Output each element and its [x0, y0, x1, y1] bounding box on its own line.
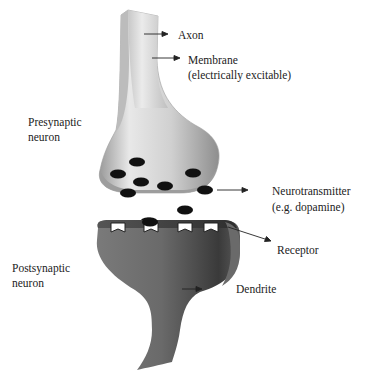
postsynaptic-neuron-shape	[97, 220, 240, 370]
label-presynaptic: Presynaptic	[28, 115, 82, 129]
vesicle	[120, 189, 136, 198]
vesicle	[157, 182, 173, 191]
arrowhead-neurotransmitter	[242, 188, 248, 193]
vesicle	[177, 206, 193, 215]
vesicle	[185, 169, 201, 178]
label-neurotransmitter: Neurotransmitter	[272, 184, 351, 198]
vesicle	[110, 170, 126, 179]
label-postsynaptic-2: neuron	[12, 276, 44, 290]
label-postsynaptic: Postsynaptic	[12, 261, 70, 275]
vesicle	[129, 158, 145, 167]
arrowhead-membrane	[174, 56, 180, 61]
vesicle	[197, 186, 213, 195]
vesicle	[133, 178, 149, 187]
label-membrane-note: (electrically excitable)	[188, 68, 291, 82]
arrowhead-axon	[162, 32, 168, 37]
label-neurotransmitter-note: (e.g. dopamine)	[272, 200, 345, 214]
bound-vesicle	[142, 218, 158, 227]
arrowhead-receptor	[265, 237, 272, 242]
label-receptor: Receptor	[277, 243, 319, 257]
label-membrane: Membrane	[188, 53, 238, 67]
label-presynaptic-2: neuron	[28, 130, 60, 144]
label-axon: Axon	[178, 28, 204, 42]
label-dendrite: Dendrite	[236, 282, 276, 296]
